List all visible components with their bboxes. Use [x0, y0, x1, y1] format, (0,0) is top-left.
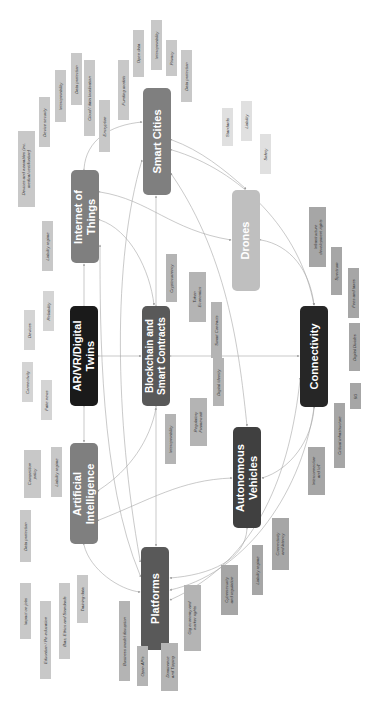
tag-interconnection-iot: Interconnection and IoT [308, 447, 325, 495]
node-label: Artificial Intelligence [71, 463, 97, 524]
tag-smart-contracts: Smart Contracts [211, 302, 222, 358]
tag-cryptocurrency: Cryptocurrency [166, 254, 177, 302]
node-drones[interactable]: Drones [232, 190, 260, 291]
node-label: Drones [240, 222, 253, 260]
tag-fees-and-taxes: Fees and taxes [348, 268, 359, 318]
tag-spectrum: Spectrum [331, 247, 342, 295]
tag-gig-economy: Gig economy and worker rights [184, 585, 201, 651]
node-label: Blockchain and Smart Contracts [144, 317, 168, 395]
tag-funding-models: Funding models [118, 60, 129, 120]
tag-liability-regime-av: Liability regime [252, 545, 263, 595]
tag-data-protection-iot: Data protection [71, 53, 82, 105]
tag-interoperability-blockchain: Interoperability [165, 414, 176, 464]
tag-liability-regime-ai: Liability regime [51, 447, 62, 497]
node-connectivity[interactable]: Connectivity [300, 306, 328, 407]
node-blockchain-smart-contracts[interactable]: Blockchain and Smart Contracts [142, 306, 170, 406]
tag-standards: Standards [222, 108, 233, 146]
tag-cybersecurity-regulation: Cybersecurity and regulation [221, 565, 238, 615]
node-label: Autonomous Vehicles [234, 444, 260, 512]
tag-digital-identity: Digital Identity [213, 358, 224, 406]
tag-fake-news: Fake news [41, 380, 52, 420]
tag-impact-on-jobs: Impact on jobs [20, 583, 31, 639]
tag-reliability: Reliability [43, 291, 54, 331]
node-artificial-intelligence[interactable]: Artificial Intelligence [70, 443, 98, 544]
tag-connectivity-latency: Connectivity and latency [272, 518, 289, 570]
tag-data-protection-ai: Data protection [20, 510, 31, 562]
tag-critical-infrastructure: Critical infrastructure [334, 403, 345, 468]
tag-infrastructure-rights: Infrastructure development rights [309, 207, 326, 267]
tag-competition-policy: Competition policy [24, 450, 41, 498]
node-label: AR/VR/Digital Twins [71, 321, 97, 392]
tag-safety: Safety [260, 134, 271, 174]
tag-interoperability-cities: Interoperability [151, 20, 162, 70]
tag-dominance-tipping: Dominance and Tipping [161, 643, 178, 691]
tag-devices-wearables: Devices and wearables (inc. medical cert… [18, 131, 35, 207]
node-internet-of-things[interactable]: Internet of Things [71, 170, 99, 263]
tag-business-model-disruption: Business model disruption [119, 601, 130, 681]
tag-bias-ethics-standards: Bias, Ethics and Standards [59, 583, 70, 659]
node-label: Internet of Things [72, 190, 98, 244]
tag-device-security: Device security [39, 97, 50, 147]
tag-privacy: Privacy [166, 40, 177, 76]
tag-5g: 5G [350, 383, 361, 409]
tag-liability-drones: Liability [241, 101, 252, 141]
tag-training-data: Training data [77, 575, 88, 623]
node-platforms[interactable]: Platforms [141, 547, 169, 650]
tag-open-data: Open data [133, 30, 144, 77]
tag-digital-divides: Digital Divides [349, 323, 360, 371]
tag-regulatory-framework: Regulatory Framework [190, 398, 207, 446]
node-smart-cities[interactable]: Smart Cities [143, 88, 171, 195]
tag-education-re-education: Education / Re-education [40, 601, 51, 679]
tag-liability-regime-iot: Liability regime [42, 221, 53, 271]
diagram-canvas: Smart Cities Internet of Things Drones A… [0, 0, 372, 714]
tag-token-economics: Token Economics [189, 272, 206, 322]
node-label: Smart Cities [151, 109, 164, 173]
node-label: Connectivity [308, 323, 321, 389]
tag-open-apis: Open APIs [137, 646, 148, 686]
node-label: Platforms [149, 573, 162, 624]
tag-interoperability-iot: Interoperability [55, 70, 66, 122]
node-ar-vr-digital-twins[interactable]: AR/VR/Digital Twins [70, 306, 98, 406]
tag-devices: Devices [24, 310, 35, 350]
tag-connectivity-arvr: Connectivity [22, 362, 33, 402]
node-autonomous-vehicles[interactable]: Autonomous Vehicles [233, 427, 261, 528]
tag-encryption: Encryption [99, 100, 110, 152]
tag-cloud-data-localisation: Cloud / data localisation [84, 60, 95, 136]
tag-data-protection-cities: Data protection [181, 50, 192, 102]
